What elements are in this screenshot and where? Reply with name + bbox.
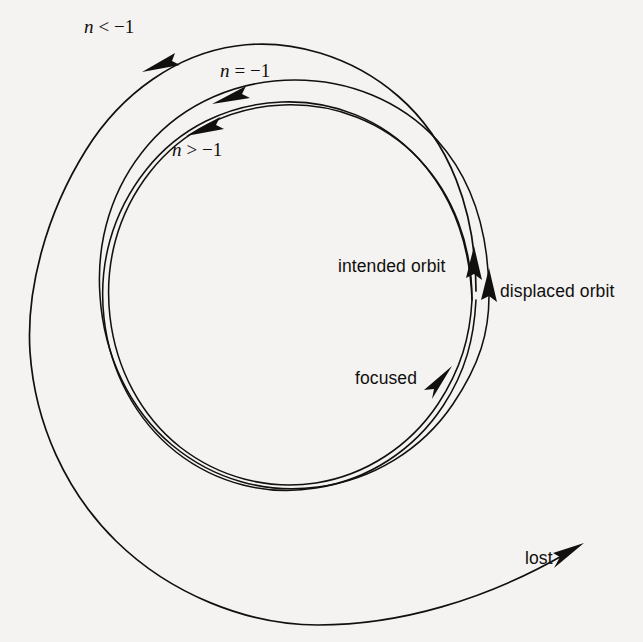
- label-n-less-than-minus-one-op: < −1: [99, 16, 135, 37]
- label-n-greater-than-minus-one-op: > −1: [187, 139, 223, 160]
- label-n-equals-minus-one: n= −1: [220, 60, 270, 81]
- label-n-greater-than-minus-one: n> −1: [172, 139, 222, 160]
- orbit-diagram-figure: n< −1 n= −1 n> −1 intended orbit displac…: [0, 0, 643, 642]
- label-n-less-than-minus-one: n< −1: [84, 16, 134, 37]
- figure-background: [0, 0, 643, 642]
- orbit-diagram-canvas: n< −1 n= −1 n> −1 intended orbit displac…: [0, 0, 643, 642]
- label-intended-orbit: intended orbit: [338, 256, 445, 276]
- label-n-equals-minus-one-op: = −1: [235, 60, 271, 81]
- label-lost: lost: [525, 548, 553, 568]
- label-displaced-orbit: displaced orbit: [500, 281, 614, 301]
- label-focused: focused: [355, 368, 417, 388]
